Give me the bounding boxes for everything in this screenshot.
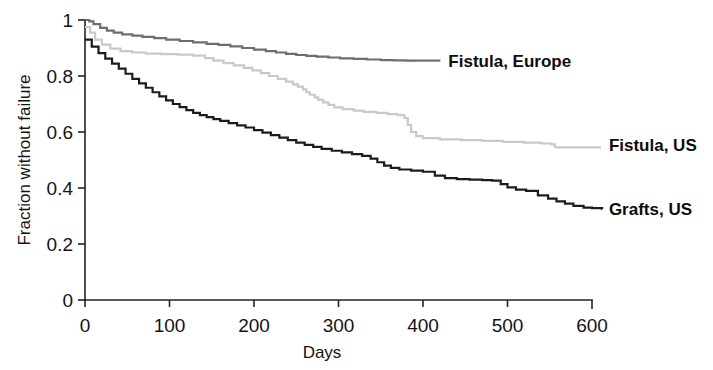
series-label-grafts-us: Grafts, US [609, 200, 692, 219]
y-axis-tick-labels: 00.20.40.60.81 [47, 10, 74, 311]
x-tick-label: 100 [154, 315, 186, 336]
x-axis-title: Days [303, 343, 342, 362]
series-curve-fistula-us [85, 27, 555, 147]
x-tick-label: 600 [576, 315, 608, 336]
y-tick-label: 0.2 [47, 234, 73, 255]
y-tick-label: 1 [62, 10, 73, 31]
y-axis-title: Fraction without failure [15, 74, 34, 245]
survival-chart-svg: 00.20.40.60.81 0100200300400500600 Days … [0, 0, 713, 370]
y-tick-label: 0.8 [47, 66, 73, 87]
x-tick-label: 400 [407, 315, 439, 336]
x-tick-label: 200 [238, 315, 270, 336]
x-axis-ticks [85, 300, 592, 309]
y-tick-label: 0.6 [47, 122, 73, 143]
series-label-fistula-europe: Fistula, Europe [448, 52, 571, 71]
x-tick-label: 500 [492, 315, 524, 336]
y-tick-label: 0 [62, 290, 73, 311]
series-curve-fistula-europe [85, 20, 419, 61]
x-tick-label: 0 [80, 315, 91, 336]
data-series-group [85, 20, 602, 209]
y-axis-ticks [78, 20, 85, 300]
series-label-fistula-us: Fistula, US [609, 136, 697, 155]
y-tick-label: 0.4 [47, 178, 74, 199]
x-axis-tick-labels: 0100200300400500600 [80, 315, 608, 336]
x-tick-label: 300 [323, 315, 355, 336]
chart-figure: 00.20.40.60.81 0100200300400500600 Days … [0, 0, 713, 370]
